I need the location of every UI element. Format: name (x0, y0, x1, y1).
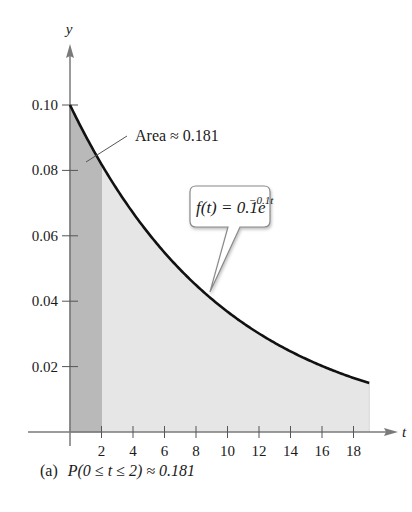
x-tick-label: 14 (283, 443, 299, 459)
area-annotation-label: Area ≈ 0.181 (135, 127, 219, 144)
y-axis-label: y (64, 21, 73, 37)
figure-caption: (a) P(0 ≤ t ≤ 2) ≈ 0.181 (40, 462, 195, 480)
x-tick-label: 4 (129, 443, 137, 459)
y-axis-arrow-icon (66, 44, 74, 58)
y-tick-label: 0.10 (32, 97, 58, 113)
function-callout-exponent: −0.1t (249, 194, 274, 206)
chart-figure: 246810121416180.020.040.060.080.10yt Are… (0, 0, 412, 512)
y-tick-label: 0.04 (32, 293, 59, 309)
x-tick-label: 16 (315, 443, 331, 459)
y-tick-label: 0.02 (32, 359, 58, 375)
x-tick-label: 2 (98, 443, 106, 459)
x-tick-label: 8 (192, 443, 200, 459)
x-tick-label: 12 (252, 443, 267, 459)
caption-prefix: (a) (40, 462, 58, 479)
y-tick-label: 0.08 (32, 162, 58, 178)
caption-probability: P(0 ≤ t ≤ 2) ≈ 0.181 (68, 462, 195, 479)
x-tick-label: 10 (220, 443, 235, 459)
chart-plot: 246810121416180.020.040.060.080.10yt Are… (0, 0, 412, 512)
x-tick-label: 6 (161, 443, 169, 459)
x-axis-label: t (402, 424, 407, 440)
x-axis-arrow-icon (384, 428, 398, 436)
x-tick-label: 18 (346, 443, 361, 459)
y-tick-label: 0.06 (32, 228, 59, 244)
